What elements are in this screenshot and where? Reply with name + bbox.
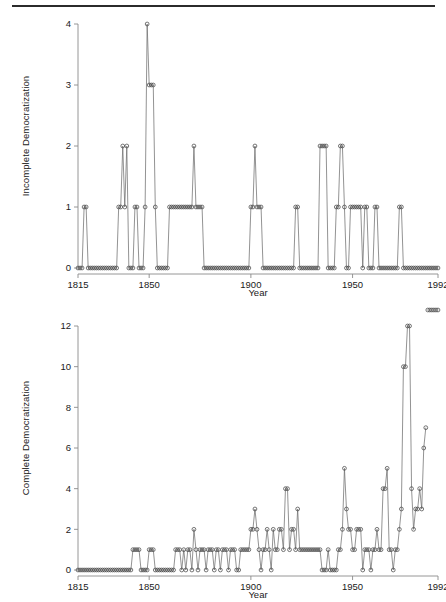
y-tick-label: 1 [66,201,71,212]
x-axis-title-top: Year [78,287,438,298]
y-tick-label: 4 [66,18,71,29]
y-axis-title-bottom: Complete Democratization [20,308,31,568]
y-tick-label: 10 [60,361,71,372]
plot-svg-top: 0123418151850190019501992 [0,14,446,300]
y-tick-label: 4 [66,483,71,494]
y-tick-label: 2 [66,140,71,151]
chart-incomplete-democratization: 0123418151850190019501992 Incomplete Dem… [0,14,446,300]
y-axis-title-top: Incomplete Democratization [20,6,31,266]
y-tick-label: 12 [60,320,71,331]
series-markers [76,308,440,572]
y-tick-label: 0 [66,262,71,273]
y-tick-label: 2 [66,524,71,535]
plot-area-bottom: 02468101218151850190019501992 [0,310,446,602]
series-line [78,24,438,268]
y-tick-label: 0 [66,564,71,575]
y-tick-label: 8 [66,402,71,413]
chart-complete-democratization: 02468101218151850190019501992 Complete D… [0,310,446,602]
series-line [78,326,426,570]
y-tick-label: 6 [66,442,71,453]
plot-svg-bottom: 02468101218151850190019501992 [0,310,446,602]
page-divider-rule [12,5,435,7]
y-tick-label: 3 [66,79,71,90]
x-axis-title-bottom: Year [78,589,438,600]
plot-area-top: 0123418151850190019501992 [0,14,446,300]
figure-page: 0123418151850190019501992 Incomplete Dem… [0,0,446,602]
series-markers [76,22,440,270]
